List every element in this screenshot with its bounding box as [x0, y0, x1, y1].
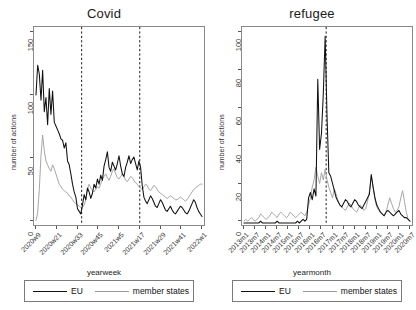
x-tickmark — [409, 226, 410, 229]
x-tickmark — [201, 226, 202, 229]
x-tickmark — [254, 226, 255, 229]
x-tickmark — [265, 226, 266, 229]
legend-label-eu: EU — [279, 286, 291, 296]
legend-line-member-states-icon — [303, 291, 337, 292]
x-tickmark — [243, 226, 244, 229]
y-axis-title-right: number of actions — [218, 114, 225, 170]
legend-line-eu-icon — [33, 291, 67, 292]
x-tickmark — [354, 226, 355, 229]
legend-line-eu-icon — [241, 291, 275, 292]
x-tick-label: 2020w9 — [4, 231, 41, 268]
panel-title-refugee: refugee — [208, 6, 416, 21]
x-tickmark — [56, 226, 57, 229]
y-axis-title-left: number of actions — [10, 114, 17, 170]
legend-label-eu: EU — [71, 286, 83, 296]
panel-title-covid: Covid — [0, 6, 208, 21]
series-line-eu — [36, 65, 202, 216]
plot-svg-refugee — [242, 27, 412, 225]
plot-svg-covid — [34, 27, 204, 225]
legend-item-member-states-covid: member states — [95, 286, 189, 296]
panel-covid: Covid number of actions 150 100 50 0 202… — [0, 0, 208, 310]
x-tickmark — [118, 226, 119, 229]
x-tickmark — [298, 226, 299, 229]
series-line-eu — [244, 36, 410, 223]
x-tickmark — [398, 226, 399, 229]
plot-area-refugee — [241, 26, 413, 226]
legend-label-member-states: member states — [133, 286, 189, 296]
x-tickmark — [376, 226, 377, 229]
x-tickmark — [77, 226, 78, 229]
x-tickmark — [35, 226, 36, 229]
series-line-member-states — [36, 135, 202, 220]
x-tickmark — [365, 226, 366, 229]
legend-item-member-states-refugee: member states — [303, 286, 397, 296]
legend-item-eu-covid: EU — [33, 286, 83, 296]
x-tickmark — [343, 226, 344, 229]
x-tickmark — [139, 226, 140, 229]
x-tickmark — [287, 226, 288, 229]
x-tickmark — [309, 226, 310, 229]
plot-area-covid — [33, 26, 205, 226]
x-tickmark — [97, 226, 98, 229]
x-axis-title-refugee: yearmonth — [208, 268, 416, 277]
legend-item-eu-refugee: EU — [241, 286, 291, 296]
x-tickmark — [180, 226, 181, 229]
legend-line-member-states-icon — [95, 291, 129, 292]
x-axis-title-covid: yearweek — [0, 268, 208, 277]
x-tickmark — [160, 226, 161, 229]
x-tickmark — [387, 226, 388, 229]
legend-covid: EU member states — [24, 280, 194, 302]
x-tickmark — [332, 226, 333, 229]
legend-refugee: EU member states — [232, 280, 402, 302]
x-tickmark — [276, 226, 277, 229]
figure-root: Covid number of actions 150 100 50 0 202… — [0, 0, 416, 310]
panel-refugee: refugee number of actions 100 80 60 40 2… — [208, 0, 416, 310]
x-tickmark — [320, 226, 321, 229]
legend-label-member-states: member states — [341, 286, 397, 296]
